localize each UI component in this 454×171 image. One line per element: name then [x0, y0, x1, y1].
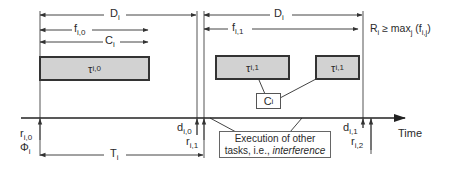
label-r-i0: ri,0 — [18, 128, 34, 142]
label-f-i0: fi,0 — [72, 23, 88, 37]
interference-note: Execution of other tasks, i.e., interfer… — [219, 131, 331, 158]
interference-line1: Execution of other — [220, 133, 330, 145]
label-r-i2: ri,2 — [349, 136, 365, 150]
c-i-callout: Ci — [256, 93, 281, 109]
task-bar-i1-part2: τi,1 — [315, 55, 360, 80]
label-D-period0: Di — [108, 8, 122, 22]
label-d-i1: di,1 — [341, 122, 360, 136]
label-D-period1: Di — [272, 8, 286, 22]
label-f-i1: fi,1 — [230, 22, 246, 36]
time-axis-label: Time — [398, 127, 422, 139]
task-bar-i0: τi,0 — [39, 56, 150, 81]
label-phi-i: Φi — [18, 142, 33, 156]
label-d-i0: di,0 — [175, 122, 194, 136]
label-C-i: Ci — [103, 35, 117, 49]
response-time-formula: Ri ≥ maxj (fi,j) — [370, 22, 431, 37]
label-r-i1: ri,1 — [184, 136, 200, 150]
label-T-i: Ti — [108, 148, 121, 162]
task-bar-i1-part1: τi,1 — [215, 55, 290, 80]
interference-line2: tasks, i.e., interference — [220, 145, 330, 157]
